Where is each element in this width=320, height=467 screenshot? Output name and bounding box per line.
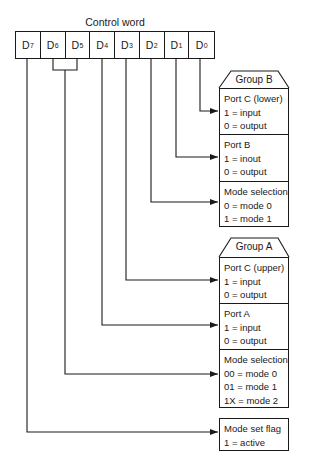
section-line: 1 = input xyxy=(224,106,288,120)
group-b-mode-section: Mode selection 0 = mode 0 1 = mode 1 xyxy=(220,182,288,226)
wire-d6-d5 xyxy=(65,70,218,374)
bracket-d6-d5 xyxy=(53,59,77,70)
wire-d0 xyxy=(200,59,218,111)
section-title: Port C (lower) xyxy=(224,92,288,106)
section-title: Mode selection xyxy=(224,185,288,199)
section-title: Mode set flag xyxy=(224,422,288,436)
wire-d2 xyxy=(151,59,218,202)
wire-d3 xyxy=(126,59,218,280)
section-line: 1 = active xyxy=(224,436,288,450)
port-a-section: Port A 1 = input 0 = output xyxy=(220,304,288,350)
section-line: 0 = output xyxy=(224,288,288,302)
port-c-upper-section: Port C (upper) 1 = input 0 = output xyxy=(220,258,288,304)
section-line: 0 = mode 0 xyxy=(224,199,288,213)
section-line: 0 = output xyxy=(224,334,288,348)
wire-d7 xyxy=(27,59,218,432)
group-a-box: Port C (upper) 1 = input 0 = output Port… xyxy=(219,257,289,408)
section-line: 1 = mode 1 xyxy=(224,212,288,226)
section-line: 1 = input xyxy=(224,275,288,289)
wire-d1 xyxy=(176,59,218,157)
mode-set-flag-box: Mode set flag 1 = active xyxy=(219,418,289,451)
mode-set-flag-section: Mode set flag 1 = active xyxy=(220,419,288,450)
section-title: Port A xyxy=(224,307,288,321)
section-line: 1X = mode 2 xyxy=(224,394,288,408)
section-line: 00 = mode 0 xyxy=(224,367,288,381)
section-line: 0 = output xyxy=(224,119,288,133)
port-b-section: Port B 1 = inout 0 = output xyxy=(220,135,288,182)
section-line: 01 = mode 1 xyxy=(224,380,288,394)
section-title: Port B xyxy=(224,138,288,152)
section-title: Port C (upper) xyxy=(224,261,288,275)
port-c-lower-section: Port C (lower) 1 = input 0 = output xyxy=(220,89,288,135)
section-title: Mode selection xyxy=(224,353,288,367)
section-line: 1 = input xyxy=(224,321,288,335)
group-a-header: Group A xyxy=(219,241,289,252)
section-line: 1 = inout xyxy=(224,152,288,166)
section-line: 0 = output xyxy=(224,165,288,179)
group-a-mode-section: Mode selection 00 = mode 0 01 = mode 1 1… xyxy=(220,350,288,407)
group-b-header: Group B xyxy=(219,74,289,85)
group-b-box: Port C (lower) 1 = input 0 = output Port… xyxy=(219,88,289,227)
wire-d4 xyxy=(102,59,218,325)
